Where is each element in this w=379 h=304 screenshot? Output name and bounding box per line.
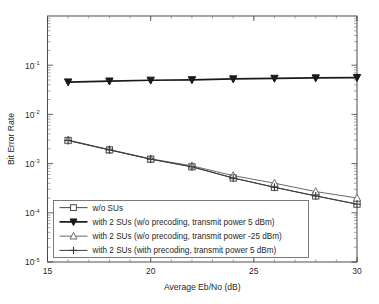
y-tick-label: 10-3: [25, 158, 39, 169]
y-tick-label: 10-2: [25, 109, 39, 120]
chart-figure: 10-110-210-310-410-515202530Average Eb/N…: [0, 0, 379, 304]
legend: w/o SUswith 2 SUs (w/o precoding, transm…: [54, 201, 309, 258]
y-tick-label: 10-1: [25, 60, 39, 71]
y-tick-label: 10-5: [25, 257, 39, 268]
legend-item[interactable]: with 2 SUs (with precoding, transmit pow…: [60, 246, 277, 255]
x-tick-label: 30: [352, 266, 362, 276]
ber-semilog-plot: 10-110-210-310-410-515202530Average Eb/N…: [0, 0, 379, 304]
legend-label: with 2 SUs (w/o precoding, transmit powe…: [92, 232, 283, 241]
legend-label: w/o SUs: [92, 204, 123, 213]
legend-label: with 2 SUs (with precoding, transmit pow…: [92, 246, 277, 255]
x-tick-label: 25: [249, 266, 259, 276]
marker-square: [71, 205, 77, 211]
legend-label: with 2 SUs (w/o precoding, transmit powe…: [92, 218, 275, 227]
y-axis-label: Bit Error Rate: [6, 113, 16, 165]
x-tick-label: 15: [43, 266, 53, 276]
x-tick-label: 20: [146, 266, 156, 276]
legend-item[interactable]: with 2 SUs (w/o precoding, transmit powe…: [60, 232, 283, 241]
y-tick-label: 10-4: [25, 208, 39, 219]
legend-item[interactable]: with 2 SUs (w/o precoding, transmit powe…: [60, 218, 275, 227]
x-axis-label: Average Eb/No (dB): [164, 282, 241, 292]
